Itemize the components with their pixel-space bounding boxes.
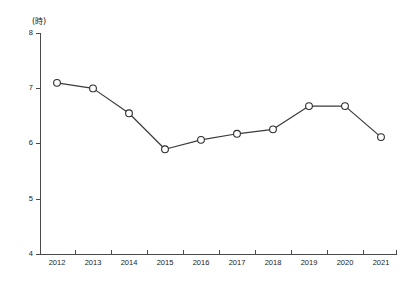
x-tick-label-2016: 2016	[193, 258, 210, 267]
x-tick-label-2017: 2017	[229, 258, 246, 267]
x-tick-label-2013: 2013	[85, 258, 102, 267]
data-point-2020	[342, 103, 349, 110]
x-tick-label-2021: 2021	[373, 258, 390, 267]
x-tick-label-2018: 2018	[265, 258, 282, 267]
data-point-2012	[54, 79, 61, 86]
x-tick-label-2019: 2019	[301, 258, 318, 267]
line-chart: (時) 8 7 6 5 4	[0, 0, 413, 288]
data-point-2021	[378, 134, 385, 141]
x-tick-label-2014: 2014	[121, 258, 138, 267]
data-point-2018	[270, 126, 277, 133]
y-tick-label-6: 6	[29, 138, 33, 147]
series-markers	[54, 79, 385, 152]
x-tick-label-2012: 2012	[49, 258, 66, 267]
data-point-2013	[90, 85, 97, 92]
y-tick-label-8: 8	[29, 28, 33, 37]
data-point-2016	[198, 136, 205, 143]
x-tick-label-2015: 2015	[157, 258, 174, 267]
data-point-2017	[234, 130, 241, 137]
x-axis-labels: 2012 2013 2014 2015 2016 2017 2018 2019 …	[49, 258, 390, 267]
data-point-2014	[126, 110, 133, 117]
y-axis-ticks: 8 7 6 5 4	[29, 28, 40, 258]
series-line	[57, 83, 381, 149]
data-point-2019	[306, 103, 313, 110]
y-tick-label-4: 4	[29, 249, 33, 258]
chart-canvas: (時) 8 7 6 5 4	[0, 0, 413, 288]
data-point-2015	[162, 146, 169, 153]
y-tick-label-7: 7	[29, 83, 33, 92]
x-tick-label-2020: 2020	[337, 258, 354, 267]
x-axis-ticks	[76, 250, 397, 254]
y-tick-label-5: 5	[29, 194, 33, 203]
y-axis-unit-label: (時)	[32, 17, 46, 26]
